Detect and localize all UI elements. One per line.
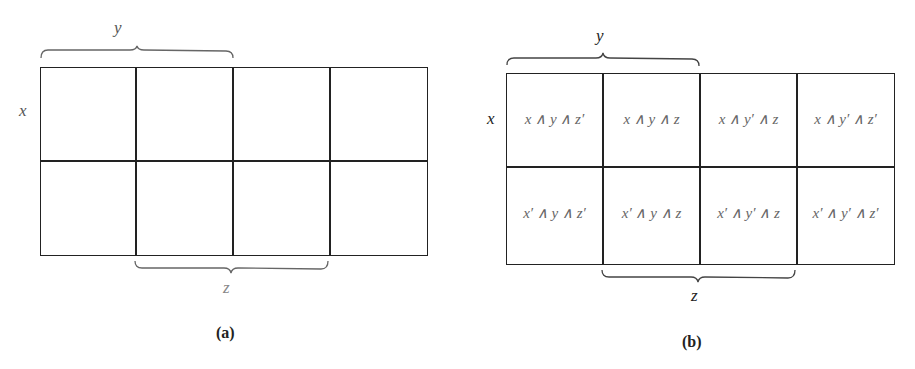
grid-a-col-divider-3 xyxy=(329,67,331,256)
grid-b-row-divider xyxy=(506,166,895,168)
grid-b-col-divider-1 xyxy=(602,73,604,265)
cell-r1-c2: x ∧ y ∧ z xyxy=(603,110,700,128)
grid-b-col-divider-2 xyxy=(699,73,701,265)
cell-r2-c2: x′ ∧ y ∧ z xyxy=(603,204,700,222)
cell-r2-c4: x′ ∧ y′ ∧ z′ xyxy=(797,204,894,222)
grid-b xyxy=(506,73,895,265)
bottom-brace-icon xyxy=(601,270,797,284)
cell-r1-c1: x ∧ y ∧ z′ xyxy=(506,110,603,128)
bottom-brace-label-z: z xyxy=(223,278,230,298)
cell-r2-c3: x′ ∧ y′ ∧ z xyxy=(700,204,797,222)
row-label-x: x xyxy=(19,101,27,121)
row-label-x: x xyxy=(487,109,495,129)
top-brace-icon xyxy=(40,46,234,60)
caption-a: (a) xyxy=(216,324,235,342)
grid-b-col-divider-3 xyxy=(796,73,798,265)
cell-r2-c1: x′ ∧ y ∧ z′ xyxy=(506,204,603,222)
caption-b: (b) xyxy=(682,333,702,351)
grid-a-row-divider xyxy=(40,160,428,162)
grid-a-col-divider-2 xyxy=(232,67,234,256)
bottom-brace-label-z: z xyxy=(691,286,698,306)
top-brace-label-y: y xyxy=(114,18,122,38)
grid-a xyxy=(40,67,428,256)
cell-r1-c3: x ∧ y′ ∧ z xyxy=(700,110,797,128)
grid-a-col-divider-1 xyxy=(135,67,137,256)
cell-r1-c4: x ∧ y′ ∧ z′ xyxy=(797,110,894,128)
bottom-brace-icon xyxy=(134,261,330,275)
top-brace-label-y: y xyxy=(596,26,604,46)
top-brace-icon xyxy=(506,53,700,67)
